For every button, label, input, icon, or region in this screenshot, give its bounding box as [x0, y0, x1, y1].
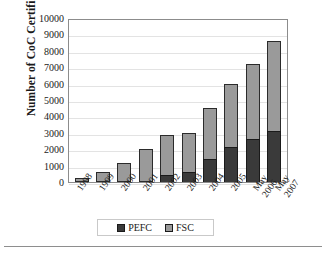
- bar-column: [182, 20, 196, 182]
- y-tick-label: 7000: [44, 63, 64, 73]
- legend-label-pefc: PEFC: [128, 223, 152, 233]
- bar-column: [224, 20, 238, 182]
- legend-item-pefc: PEFC: [117, 223, 152, 233]
- y-tick-label: 2000: [44, 145, 64, 155]
- chart-legend: PEFC FSC: [97, 219, 214, 236]
- footer-divider: [4, 246, 322, 247]
- y-tick-label: 0: [59, 178, 64, 188]
- bar-column: [117, 20, 131, 182]
- bar-column: [139, 20, 153, 182]
- pefc-swatch-icon: [117, 224, 125, 232]
- fsc-swatch-icon: [165, 224, 173, 232]
- y-tick-label: 5000: [44, 96, 64, 106]
- y-axis-tick-labels: 1000090008000700060005000400030002000100…: [18, 12, 64, 190]
- bar-column: [246, 20, 260, 182]
- bar-column: [267, 20, 281, 182]
- legend-label-fsc: FSC: [176, 223, 194, 233]
- bar-segment-fsc: [246, 64, 260, 139]
- bar-column: [75, 20, 89, 182]
- plot-area: [68, 19, 288, 183]
- bar-segment-fsc: [182, 133, 196, 172]
- bar-segment-fsc: [224, 84, 238, 147]
- bar-segment-fsc: [203, 108, 217, 159]
- chart-figure: Number of CoC Certificates 1000090008000…: [0, 0, 326, 257]
- y-tick-label: 10000: [39, 14, 64, 24]
- y-tick-label: 3000: [44, 129, 64, 139]
- y-tick-label: 9000: [44, 30, 64, 40]
- bar-segment-pefc: [267, 131, 281, 182]
- y-tick-label: 4000: [44, 112, 64, 122]
- bar-column: [96, 20, 110, 182]
- y-tick-label: 1000: [44, 162, 64, 172]
- bar-series-group: [69, 20, 287, 182]
- bar-column: [160, 20, 174, 182]
- bar-column: [203, 20, 217, 182]
- y-tick-label: 8000: [44, 47, 64, 57]
- legend-item-fsc: FSC: [165, 223, 194, 233]
- bar-segment-fsc: [160, 135, 174, 175]
- y-tick-label: 6000: [44, 80, 64, 90]
- bar-segment-fsc: [267, 41, 281, 131]
